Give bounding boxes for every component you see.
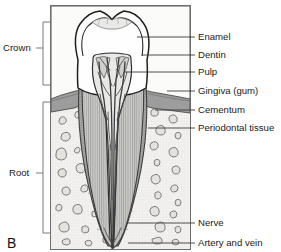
- panel-letter-label: B: [7, 235, 16, 251]
- callout-label-pulp: Pulp: [198, 66, 217, 77]
- callout-label-enamel: Enamel: [198, 31, 231, 42]
- side-label-crown: Crown: [3, 42, 31, 53]
- figure-panel: Crown Root Enamel Dentin Pulp Gingiva (g…: [0, 0, 281, 252]
- side-bracket-crown: [36, 22, 50, 85]
- side-label-root: Root: [9, 167, 30, 178]
- tooth-anatomy-diagram: Crown Root Enamel Dentin Pulp Gingiva (g…: [0, 0, 281, 252]
- callout-label-artery-and-vein: Artery and vein: [198, 237, 263, 248]
- callout-label-gingiva: Gingiva (gum): [198, 85, 258, 96]
- callout-label-cementum: Cementum: [198, 104, 245, 115]
- side-bracket-root: [36, 102, 50, 233]
- callout-label-nerve: Nerve: [198, 217, 224, 228]
- callout-label-periodontal-tissue: Periodontal tissue: [198, 122, 274, 133]
- callout-label-dentin: Dentin: [198, 49, 226, 60]
